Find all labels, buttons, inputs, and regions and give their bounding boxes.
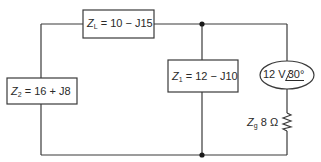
z1-symbol: Z bbox=[172, 70, 179, 82]
zl-symbol: Z bbox=[87, 17, 94, 29]
z2-subscript: 2 bbox=[18, 91, 22, 98]
zl-label: ZL = 10 − J15 bbox=[87, 18, 153, 30]
source-label: 12 V30° bbox=[263, 69, 304, 80]
zl-subscript: L bbox=[94, 23, 98, 30]
z2-label: Z2 = 16 + J8 bbox=[11, 86, 71, 98]
circuit-wiring bbox=[0, 0, 321, 162]
zg-value: 8 Ω bbox=[261, 116, 278, 128]
zg-label: Zg 8 Ω bbox=[247, 117, 278, 129]
junction-top bbox=[199, 21, 204, 26]
source-angle: 30° bbox=[286, 68, 305, 81]
z1-subscript: 1 bbox=[179, 76, 183, 83]
zl-value: 10 − J15 bbox=[110, 17, 153, 29]
resistor-zg bbox=[283, 113, 291, 131]
z1-label: Z1 = 12 − J10 bbox=[172, 71, 238, 83]
source-magnitude: 12 V bbox=[263, 68, 286, 80]
z2-value: 16 + J8 bbox=[34, 85, 70, 97]
zg-subscript: g bbox=[254, 122, 258, 129]
zg-symbol: Z bbox=[247, 116, 254, 128]
z2-symbol: Z bbox=[11, 85, 18, 97]
junction-bottom bbox=[199, 152, 204, 157]
z1-value: 12 − J10 bbox=[195, 70, 238, 82]
